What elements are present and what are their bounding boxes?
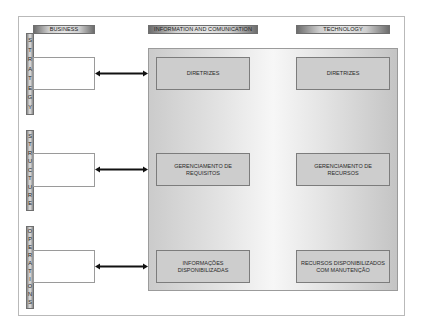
letter: S [28,38,32,44]
letter: T [28,269,31,275]
header-technology: TECHNOLOGY [296,25,390,34]
letter: A [28,261,32,267]
letter: S [28,300,32,306]
info-box-diretrizes: DIRETRIZES [156,57,250,90]
letter: E [28,201,32,207]
letter: R [28,151,32,157]
letter: A [28,67,32,73]
letter: O [28,229,32,235]
header-information-communication: INFORMATION AND COMUNICATION [148,25,258,34]
letter: U [28,185,32,191]
letter: R [28,193,32,199]
letter: E [28,245,32,251]
letter: R [28,253,32,259]
header-business: BUSINESS [33,25,95,34]
tech-box-gerenciamento-recursos: GERENCIAMENTO DE RECURSOS [296,153,390,186]
tech-box-recursos-disponibilizados: RECURSOS DISPONIBILIZADOS COM MANUTENÇÃO [296,250,390,283]
letter: G [28,95,32,101]
letter: T [28,76,31,82]
letter: T [28,176,31,182]
bidirectional-arrow-icon [95,166,148,173]
bidirectional-arrow-icon [95,263,148,270]
letter: U [28,159,32,165]
info-box-gerenciamento-requisitos: GERENCIAMENTO DE REQUISITOS [156,153,250,186]
letter: N [28,292,32,298]
letter: T [28,48,31,54]
letter: Y [28,105,32,111]
letter: R [28,57,32,63]
letter: C [28,168,32,174]
business-box-operations [33,250,95,283]
business-box-structure [33,153,95,187]
letter: T [28,142,31,148]
info-box-informacoes-disponibilizadas: INFORMAÇÕES DISPONIBILIZADAS [156,250,250,283]
letter: O [28,284,32,290]
bidirectional-arrow-icon [95,70,148,77]
letter: I [29,277,31,283]
tech-box-diretrizes: DIRETRIZES [296,57,390,90]
letter: S [28,134,32,140]
letter: E [28,86,32,92]
letter: P [28,237,32,243]
business-box-strategy [33,57,95,90]
